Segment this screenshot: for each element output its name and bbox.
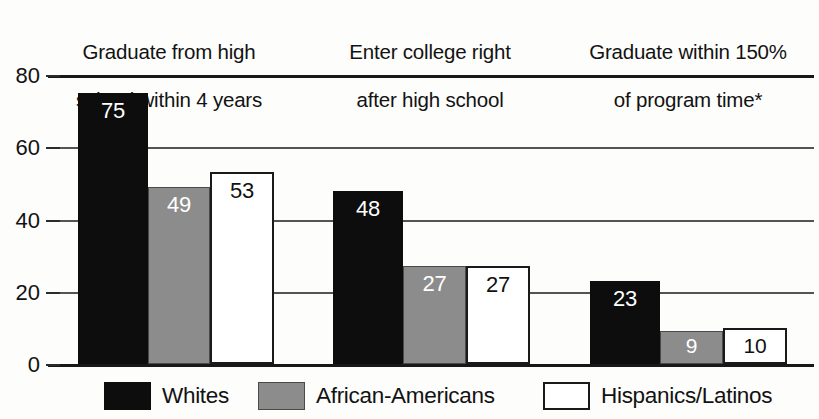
- bar-group1-hispanics-latinos[interactable]: 53: [210, 172, 274, 364]
- bar-group3-whites[interactable]: 23: [590, 281, 660, 364]
- bar-group2-whites[interactable]: 48: [333, 191, 403, 364]
- y-tick-mark-0: [46, 364, 60, 366]
- y-tick-label-0: 0: [28, 354, 40, 376]
- bar-value-group3-hispanics-latinos: 10: [725, 334, 785, 358]
- bar-group3-african-americans[interactable]: 9: [660, 331, 723, 364]
- legend-label-hispanics-latinos: Hispanics/Latinos: [601, 384, 772, 408]
- legend-label-whites: Whites: [162, 384, 229, 408]
- group-header-2-line2: after high school: [305, 88, 555, 112]
- bar-value-group3-african-americans: 9: [661, 334, 722, 358]
- y-tick-mark-80: [46, 75, 60, 77]
- bar-group1-whites[interactable]: 75: [78, 93, 148, 364]
- bar-value-group1-hispanics-latinos: 53: [212, 179, 272, 203]
- bar-group3-hispanics-latinos[interactable]: 10: [723, 328, 787, 364]
- y-axis: 80 60 40 20 0: [0, 0, 40, 419]
- y-tick-mark-60: [46, 147, 60, 149]
- white-outlined-swatch-icon: [543, 382, 590, 410]
- y-tick-mark-20: [46, 292, 60, 294]
- bar-value-group2-hispanics-latinos: 27: [468, 273, 528, 297]
- bar-group2-hispanics-latinos[interactable]: 27: [466, 266, 530, 364]
- y-tick-label-40: 40: [16, 210, 40, 232]
- y-tick-label-80: 80: [16, 65, 40, 87]
- bar-value-group2-whites: 48: [334, 197, 402, 221]
- legend-item-african-americans[interactable]: African-Americans: [258, 382, 495, 410]
- bar-group1-african-americans[interactable]: 49: [148, 187, 210, 364]
- bar-group2-african-americans[interactable]: 27: [403, 266, 466, 364]
- bar-value-group1-african-americans: 49: [149, 193, 209, 217]
- group-header-3-line1: Graduate within 150%: [562, 40, 814, 64]
- group-header-1-line1: Graduate from high: [44, 40, 294, 64]
- gray-filled-swatch-icon: [258, 382, 305, 410]
- y-tick-label-60: 60: [16, 137, 40, 159]
- gridline-80: [48, 75, 814, 78]
- gridline-60: [48, 147, 814, 149]
- bar-chart-figure: Graduate from high school within 4 years…: [0, 0, 819, 419]
- group-header-2-line1: Enter college right: [305, 40, 555, 64]
- legend-item-hispanics-latinos[interactable]: Hispanics/Latinos: [543, 382, 772, 410]
- bar-value-group1-whites: 75: [79, 99, 147, 123]
- legend-item-whites[interactable]: Whites: [104, 382, 229, 410]
- group-header-3-line2: of program time*: [562, 88, 814, 112]
- y-tick-mark-40: [46, 220, 60, 222]
- chart-legend: Whites African-Americans Hispanics/Latin…: [0, 378, 819, 419]
- y-tick-label-20: 20: [16, 282, 40, 304]
- axis-baseline-0: [48, 364, 814, 367]
- black-filled-swatch-icon: [104, 382, 151, 410]
- bar-value-group3-whites: 23: [591, 287, 659, 311]
- bar-value-group2-african-americans: 27: [404, 272, 465, 296]
- legend-label-african-americans: African-Americans: [316, 384, 495, 408]
